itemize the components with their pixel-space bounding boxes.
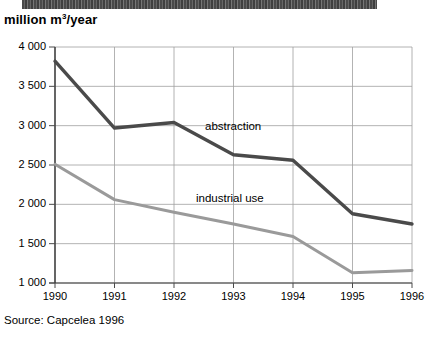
x-tick-label: 1990 xyxy=(32,290,78,302)
x-tick-label: 1995 xyxy=(330,290,376,302)
y-tick-label: 1 500 xyxy=(2,237,46,249)
x-tick-label: 1996 xyxy=(389,290,425,302)
y-tick-label: 4 000 xyxy=(2,40,46,52)
y-tick-label: 3 000 xyxy=(2,119,46,131)
x-tick-label: 1993 xyxy=(211,290,257,302)
y-tick-label: 2 000 xyxy=(2,197,46,209)
y-tick-label: 2 500 xyxy=(2,158,46,170)
chart-plot-svg xyxy=(0,0,425,337)
gridlines xyxy=(55,47,412,283)
x-tick-label: 1994 xyxy=(270,290,316,302)
series-label-industrial-use: industrial use xyxy=(196,192,264,204)
x-tick-label: 1992 xyxy=(151,290,197,302)
series-label-abstraction: abstraction xyxy=(205,120,261,132)
y-tick-label: 1 000 xyxy=(2,276,46,288)
source-note: Source: Capcelea 1996 xyxy=(4,314,124,326)
axis-ticks xyxy=(49,47,412,288)
line-chart: 1 0001 5002 0002 5003 0003 5004 000 1990… xyxy=(0,0,425,337)
x-tick-label: 1991 xyxy=(92,290,138,302)
y-tick-label: 3 500 xyxy=(2,79,46,91)
